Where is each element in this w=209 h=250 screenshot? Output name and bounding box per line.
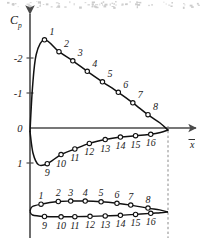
cp-point-upper-6 [116,90,120,94]
y-axis-title-subscript: p [17,21,22,30]
cp-point-label-3: 3 [77,47,83,58]
cp-point-upper-2 [57,50,61,54]
cp-point-upper-4 [85,69,89,73]
airfoil-point-label-13: 13 [100,219,110,230]
airfoil-point-label-6: 6 [114,189,119,200]
cp-point-lower-13 [103,137,107,141]
cp-point-label-7: 7 [138,89,144,100]
cp-point-label-11: 11 [70,152,79,163]
airfoil-point-label-11: 11 [70,220,79,231]
airfoil-point-label-3: 3 [67,187,73,198]
cp-point-label-4: 4 [92,58,97,69]
airfoil-point-lower-13 [103,214,107,218]
airfoil-point-label-12: 12 [85,219,95,230]
airfoil-point-lower-16 [149,211,153,215]
cp-point-lower-11 [73,147,77,151]
airfoil-point-upper-4 [83,199,87,203]
airfoil-point-lower-11 [73,214,77,218]
y-tick-label--1: -1 [14,88,23,99]
cp-data-markers: 12345678910111213141516 [42,26,158,177]
cp-point-lower-15 [133,134,137,138]
airfoil-point-label-7: 7 [128,191,134,202]
cp-point-upper-7 [131,101,135,105]
airfoil-point-upper-6 [115,201,119,205]
cp-point-label-12: 12 [84,146,94,157]
cp-point-upper-1 [42,38,46,42]
cp-point-label-10: 10 [56,158,66,169]
cp-point-upper-3 [71,59,75,63]
scan-noise-artifact [7,1,200,9]
airfoil-point-label-4: 4 [83,187,88,198]
cp-point-label-9: 9 [45,167,50,178]
y-tick-label-0: 0 [17,123,23,134]
cp-point-lower-10 [59,152,63,156]
cp-point-upper-5 [100,80,104,84]
figure-canvas: -2-101Cpx1234567891011121314151612345678… [0,0,209,250]
airfoil-point-upper-7 [129,203,133,207]
cp-point-label-13: 13 [100,143,110,154]
airfoil-point-lower-9 [42,214,46,218]
cp-point-label-2: 2 [64,38,69,49]
airfoil-point-label-1: 1 [39,190,44,201]
upper-surface-cp-curve [30,40,168,132]
cp-point-label-5: 5 [107,68,112,79]
cp-point-lower-12 [87,141,91,145]
airfoil-section: 12345678910111213141516 [30,187,168,231]
airfoil-point-upper-5 [99,200,103,204]
cp-point-label-14: 14 [115,140,125,151]
airfoil-point-upper-1 [39,202,43,206]
airfoil-point-label-14: 14 [115,218,125,229]
airfoil-point-lower-14 [118,213,122,217]
airfoil-point-lower-10 [59,215,63,219]
cp-point-label-8: 8 [153,101,158,112]
cp-point-lower-16 [149,132,153,136]
cp-point-label-6: 6 [123,79,128,90]
cp-point-label-16: 16 [146,137,156,148]
airfoil-point-label-9: 9 [42,220,47,231]
cp-point-label-1: 1 [49,26,54,37]
y-tick-label--2: -2 [14,53,23,64]
airfoil-point-lower-12 [88,214,92,218]
cp-point-upper-8 [146,113,150,117]
cp-point-label-15: 15 [131,139,141,150]
pressure-distribution-figure: -2-101Cpx1234567891011121314151612345678… [0,0,209,250]
airfoil-point-label-5: 5 [99,187,104,198]
airfoil-point-label-10: 10 [56,220,66,231]
airfoil-point-upper-3 [69,199,73,203]
x-axis-title: x [189,139,195,150]
airfoil-point-label-15: 15 [131,217,141,228]
airfoil-point-label-8: 8 [145,194,150,205]
cp-point-lower-9 [45,162,49,166]
airfoil-point-upper-8 [146,206,150,210]
airfoil-point-label-2: 2 [56,187,61,198]
airfoil-point-upper-2 [56,199,60,203]
airfoil-point-label-16: 16 [146,216,156,227]
airfoil-point-lower-15 [133,212,137,216]
cp-point-lower-14 [118,135,122,139]
y-tick-label-1: 1 [17,158,22,169]
